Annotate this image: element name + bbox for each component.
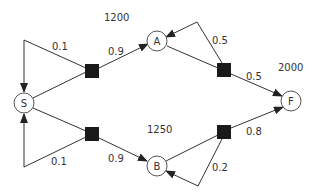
decision-square-bottom-right	[217, 125, 231, 139]
edge-a-to-square-top-right	[167, 46, 218, 68]
state-node-a: A	[147, 31, 167, 51]
prob-label-s-to-a: 0.9	[108, 46, 124, 57]
value-label-b: 1250	[147, 124, 172, 135]
value-label-f: 2000	[278, 62, 303, 73]
prob-label-b-loop: 0.2	[212, 162, 228, 173]
edge-s-to-square-bottom	[33, 108, 86, 131]
prob-label-b-to-f: 0.8	[246, 126, 262, 137]
state-node-f: F	[281, 91, 301, 111]
state-label-s: S	[21, 98, 27, 109]
state-node-s: S	[14, 93, 34, 113]
prob-label-a-to-f: 0.5	[246, 71, 262, 82]
decision-square-top-right	[217, 63, 231, 77]
edge-s-to-square-top	[33, 72, 86, 98]
state-label-a: A	[154, 36, 161, 47]
decision-square-bottom-left	[85, 127, 99, 141]
value-label-a: 1200	[104, 12, 129, 23]
prob-label-s-loop-bottom: 0.1	[51, 156, 67, 167]
state-node-b: B	[147, 156, 167, 176]
transition-diagram: S A B F 1200 1250 2000 0.1 0.9 0.5 0.5 0…	[0, 0, 316, 194]
prob-label-s-to-b: 0.9	[108, 153, 124, 164]
state-label-f: F	[288, 96, 294, 107]
prob-label-a-loop: 0.5	[212, 35, 228, 46]
edge-square-to-f-bottom	[231, 107, 283, 128]
prob-label-s-loop-top: 0.1	[52, 41, 68, 52]
state-label-b: B	[154, 161, 161, 172]
decision-square-top-left	[85, 64, 99, 78]
edge-b-to-square-bottom-right	[166, 135, 218, 161]
